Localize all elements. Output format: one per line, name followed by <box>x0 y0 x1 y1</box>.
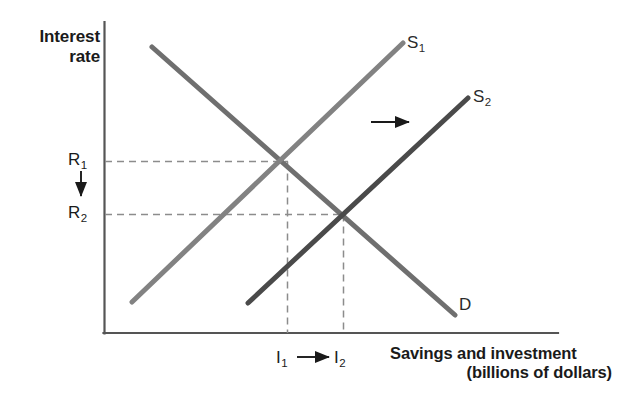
y-tick-label-r2: R2 <box>68 203 87 223</box>
curve-label-s1-subscript: 1 <box>419 42 425 54</box>
curve-label-s2: S2 <box>473 87 491 107</box>
x-axis-title-line2: (billions of dollars) <box>390 363 614 382</box>
x-axis-title-line1: Savings and investment <box>390 344 577 362</box>
x-tick-label-i1-subscript: 1 <box>281 357 287 369</box>
demand-curve <box>152 47 455 315</box>
y-tick-label-r1-text: R <box>68 150 80 169</box>
y-axis-title-line2: rate <box>69 47 100 66</box>
curve-label-s2-subscript: 2 <box>485 96 491 108</box>
curve-label-s2-text: S <box>473 87 484 106</box>
x-tick-label-i2: I2 <box>334 348 345 368</box>
x-tick-label-i1: I1 <box>276 348 287 368</box>
y-tick-label-r2-subscript: 2 <box>81 212 87 224</box>
supply-curve-s2 <box>248 98 468 303</box>
x-tick-label-i2-subscript: 2 <box>339 357 345 369</box>
chart-figure: Interest rate Savings and investment (bi… <box>0 0 619 403</box>
y-tick-label-r1: R1 <box>68 150 87 170</box>
y-tick-label-r1-subscript: 1 <box>81 159 87 171</box>
axes-group <box>104 22 559 334</box>
curve-label-s1: S1 <box>407 33 425 53</box>
y-axis-title: Interest rate <box>28 27 100 67</box>
x-axis-title: Savings and investment (billions of doll… <box>390 344 614 383</box>
y-axis-title-line1: Interest <box>39 27 100 46</box>
curve-label-s1-text: S <box>407 33 418 52</box>
y-tick-label-r2-text: R <box>68 203 80 222</box>
curve-label-d-text: D <box>459 295 471 314</box>
equilibrium-1-guides <box>105 162 288 334</box>
curve-label-d: D <box>459 295 471 315</box>
supply-curve-s1 <box>132 43 403 302</box>
equilibrium-2-guides <box>105 215 344 334</box>
